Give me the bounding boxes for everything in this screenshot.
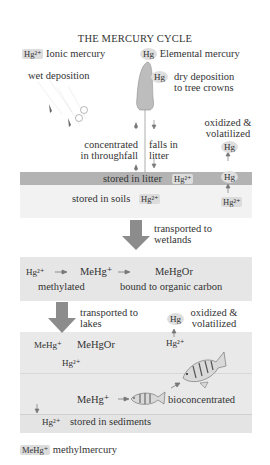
- throughfall-drop-icon: [134, 122, 138, 129]
- transport-lakes-label: transported to lakes: [80, 307, 138, 329]
- lake-volatile-hg: Hg: [167, 313, 184, 325]
- wetland-hg2: Hg²⁺: [26, 267, 44, 278]
- soil-hg2-right: Hg²⁺: [221, 196, 242, 208]
- raindrop-icon: [68, 118, 71, 127]
- methylated-label: methylated: [38, 281, 85, 292]
- bound-organic-carbon-label: bound to organic carbon: [120, 281, 222, 292]
- large-fish-icon: [183, 352, 226, 388]
- wet-deposition-label: wet deposition: [28, 70, 90, 81]
- methyl-symbol: MeHg⁺: [20, 445, 50, 455]
- lake-mehg: MeHg⁺: [34, 340, 62, 351]
- fish-mehg: MeHg⁺: [77, 394, 109, 405]
- litter-label: stored in litter: [103, 173, 162, 184]
- vapor-bubble-icon: [81, 107, 88, 114]
- lake-mehgor: MeHgOr: [77, 339, 115, 350]
- soil-species: Hg²⁺: [139, 193, 160, 205]
- elemental-label: Elemental mercury: [160, 48, 240, 59]
- transport-wetlands-label: transported to wetlands: [154, 223, 212, 245]
- dry-deposition-label: dry deposition to tree crowns: [174, 71, 234, 93]
- transport-lakes-arrow: [48, 302, 76, 333]
- oxidized-volatilized-label: oxidized & volatilized: [198, 117, 258, 139]
- elemental-symbol: Hg: [140, 48, 157, 60]
- vapor-bubble-icon: [76, 115, 83, 122]
- wetland-mehgor: MeHgOr: [155, 266, 193, 277]
- legend-ionic: Hg²⁺ Ionic mercury: [22, 48, 105, 60]
- tree-icon: [137, 62, 154, 110]
- sediment-species: Hg²⁺: [42, 417, 60, 428]
- volatile-hg-mid: Hg: [221, 171, 238, 183]
- methyl-label: methylmercury: [53, 444, 117, 455]
- soil-label: stored in soils: [72, 193, 130, 204]
- ionic-symbol: Hg²⁺: [22, 49, 43, 59]
- legend-elemental: Hg Elemental mercury: [140, 48, 240, 60]
- lake-volatile-source: Hg²⁺: [166, 338, 184, 349]
- ionic-label: Ionic mercury: [46, 48, 105, 59]
- bioconcentrated-label: bioconcentrated: [168, 394, 235, 405]
- lake-hg2: Hg²⁺: [62, 358, 80, 369]
- sediment-label: stored in sediments: [70, 416, 151, 427]
- falls-in-litter-label: falls in litter: [149, 139, 178, 161]
- raindrop-icon: [49, 104, 52, 113]
- small-fish-icon: [131, 392, 165, 404]
- sediment-arrow: [35, 404, 39, 413]
- wetland-mehg: MeHg⁺: [80, 266, 112, 277]
- lake-volatilize-arrow: [172, 329, 176, 337]
- diagram-title: THE MERCURY CYCLE: [0, 33, 270, 44]
- transport-wetlands-arrow: [122, 220, 150, 250]
- throughfall-drop-icon: [134, 164, 138, 171]
- legend-methyl: MeHg⁺ methylmercury: [20, 444, 117, 456]
- throughfall-label: concentrated in throughfall: [60, 139, 138, 161]
- litter-species: Hg²⁺: [172, 173, 193, 185]
- dry-deposition-hg: Hg: [151, 71, 168, 83]
- volatile-hg-top: Hg: [221, 141, 238, 153]
- lake-oxidized-label: oxidized & volatilized: [184, 307, 244, 329]
